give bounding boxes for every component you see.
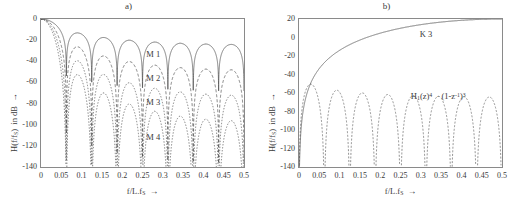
y-tick-label: -140: [22, 163, 37, 171]
y-tick-label: -100: [280, 126, 295, 134]
x-tick-label: 0.15: [95, 172, 109, 180]
curve-label: M 3: [146, 97, 160, 107]
y-tick-label: -40: [284, 71, 295, 79]
panel-b-y-ticks: 200-20-40-60-80-100-120-140: [258, 18, 295, 168]
x-tick-label: 0.25: [394, 172, 408, 180]
figure-root: a) H(f/fS) in dB → 0-20-40-60-80-100-120…: [0, 0, 515, 205]
panel-a-x-axis-label: f/L.fS →: [40, 186, 245, 196]
panel-a: a) H(f/fS) in dB → 0-20-40-60-80-100-120…: [0, 0, 257, 205]
curve-k-3: [300, 19, 502, 167]
x-tick-label: 0.4: [198, 172, 208, 180]
x-tick-label: 0.2: [375, 172, 385, 180]
y-tick-label: 0: [291, 34, 295, 42]
y-tick-label: -100: [22, 121, 37, 129]
panel-a-curves: [41, 19, 244, 167]
curve-h1-z-4-times-1-minus-z-inv-3: [299, 84, 501, 167]
panel-b: b) H(f/fS) in dB → 200-20-40-60-80-100-1…: [258, 0, 515, 205]
x-tick-label: 0.5: [239, 172, 249, 180]
panel-b-plot-area: [298, 18, 503, 168]
x-tick-label: 0.4: [456, 172, 466, 180]
y-tick-label: -80: [26, 100, 37, 108]
panel-a-y-ticks: 0-20-40-60-80-100-120-140: [0, 18, 37, 168]
x-tick-label: 0.05: [54, 172, 68, 180]
x-tick-label: 0.1: [335, 172, 345, 180]
x-tick-label: 0.3: [416, 172, 426, 180]
y-tick-label: -40: [26, 57, 37, 65]
x-tick-label: 0.35: [176, 172, 190, 180]
panel-b-x-ticks: 00.050.10.150.20.250.30.350.40.450.5: [298, 170, 503, 184]
x-tick-label: 0.5: [497, 172, 507, 180]
y-tick-label: -20: [26, 36, 37, 44]
panel-b-title: b): [258, 1, 515, 11]
x-tick-label: 0.35: [434, 172, 448, 180]
panel-a-x-ticks: 00.050.10.150.20.250.30.350.40.450.5: [40, 170, 245, 184]
panel-a-title: a): [0, 1, 257, 11]
x-tick-label: 0.1: [77, 172, 87, 180]
panel-b-x-axis-label: f/L.fS →: [298, 186, 503, 196]
curve-label: M 1: [146, 49, 160, 59]
panel-b-curves: [299, 19, 502, 167]
y-tick-label: -80: [284, 108, 295, 116]
x-tick-label: 0.05: [312, 172, 326, 180]
x-tick-label: 0.2: [117, 172, 127, 180]
y-tick-label: -60: [284, 89, 295, 97]
y-tick-label: -140: [280, 163, 295, 171]
y-tick-label: -120: [22, 142, 37, 150]
y-tick-label: -20: [284, 52, 295, 60]
curve-m-2: [41, 19, 244, 163]
x-tick-label: 0.25: [136, 172, 150, 180]
y-tick-label: 20: [287, 15, 295, 23]
x-tick-label: 0: [39, 172, 43, 180]
x-tick-label: 0.45: [217, 172, 231, 180]
curve-label: M 2: [146, 73, 160, 83]
y-tick-label: 0: [33, 15, 37, 23]
curve-label: K 3: [420, 29, 433, 39]
x-tick-label: 0.45: [475, 172, 489, 180]
x-tick-label: 0.3: [158, 172, 168, 180]
x-tick-label: 0: [297, 172, 301, 180]
curve-label: M 4: [146, 132, 160, 142]
y-tick-label: -60: [26, 78, 37, 86]
curve-label: H1(z)4 · (1-z-1)3: [411, 91, 466, 101]
x-tick-label: 0.15: [353, 172, 367, 180]
y-tick-label: -120: [280, 145, 295, 153]
panel-a-plot-area: [40, 18, 245, 168]
